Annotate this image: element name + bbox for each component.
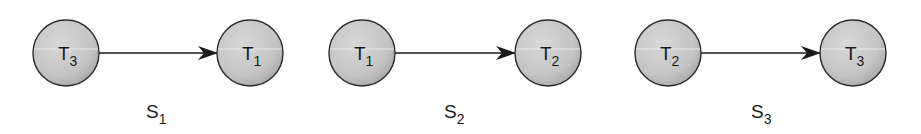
graph-s2: T1 T2 S2 bbox=[329, 20, 581, 127]
node-t1: T1 bbox=[329, 20, 395, 86]
precedence-graphs-figure: T3 T1 S1 T1 T2 S2 T2 bbox=[0, 0, 921, 134]
graph-label-s2: S2 bbox=[444, 101, 465, 127]
graph-label-s1: S1 bbox=[146, 101, 167, 127]
node-t1: T1 bbox=[217, 20, 283, 86]
node-t3: T3 bbox=[33, 20, 99, 86]
graph-s3: T2 T3 S3 bbox=[635, 20, 886, 127]
graph-s1: T3 T1 S1 bbox=[33, 20, 283, 127]
graph-label-s3: S3 bbox=[751, 101, 772, 127]
node-t3: T3 bbox=[820, 20, 886, 86]
node-t2: T2 bbox=[515, 20, 581, 86]
node-t2: T2 bbox=[635, 20, 701, 86]
